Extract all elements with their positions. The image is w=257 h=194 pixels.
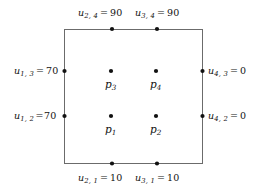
interior-label-p3-subscript: 3 bbox=[112, 83, 117, 92]
boundary-label-u-2-1-equals: = bbox=[100, 172, 108, 183]
interior-node-p4 bbox=[154, 69, 158, 73]
boundary-label-u-4-2-subscript: 4, 2 bbox=[214, 115, 228, 123]
boundary-label-u-1-2-value: 70 bbox=[44, 110, 56, 121]
boundary-label-u-3-4: u3, 4=90 bbox=[135, 8, 179, 20]
interior-label-p1-symbol: p bbox=[105, 123, 112, 135]
boundary-label-u-2-1-subscript: 2, 1 bbox=[84, 177, 98, 185]
interior-label-p4: p4 bbox=[150, 79, 161, 91]
interior-node-p2 bbox=[154, 114, 158, 118]
boundary-label-u-3-1: u3, 1=10 bbox=[135, 173, 179, 185]
boundary-label-u-3-4-value: 90 bbox=[167, 7, 179, 18]
boundary-node-u-2-4 bbox=[110, 27, 114, 31]
boundary-label-u-1-2-subscript: 1, 2 bbox=[20, 115, 34, 123]
boundary-label-u-4-2-equals: = bbox=[230, 110, 238, 121]
boundary-label-u-1-3: u1, 3=70 bbox=[14, 66, 58, 78]
boundary-label-u-2-4-subscript: 2, 4 bbox=[84, 12, 98, 20]
boundary-label-u-4-2: u4, 2=0 bbox=[208, 111, 246, 123]
boundary-label-u-3-1-subscript: 3, 1 bbox=[141, 177, 155, 185]
boundary-label-u-1-3-subscript: 1, 3 bbox=[20, 70, 34, 78]
interior-label-p2-subscript: 2 bbox=[157, 128, 162, 137]
boundary-label-u-4-2-value: 0 bbox=[240, 110, 246, 121]
diagram-graphics bbox=[0, 0, 257, 194]
interior-label-p3: p3 bbox=[105, 79, 116, 91]
boundary-label-u-2-1-value: 10 bbox=[110, 172, 122, 183]
interior-label-p3-symbol: p bbox=[105, 78, 112, 90]
boundary-node-u-1-2 bbox=[62, 114, 66, 118]
boundary-node-u-4-2 bbox=[200, 114, 204, 118]
boundary-label-u-2-4: u2, 4=90 bbox=[78, 8, 122, 20]
interior-label-p1: p1 bbox=[105, 124, 116, 136]
boundary-label-u-2-4-value: 90 bbox=[110, 7, 122, 18]
interior-node-p3 bbox=[109, 69, 113, 73]
boundary-label-u-3-1-equals: = bbox=[157, 172, 165, 183]
boundary-label-u-2-1: u2, 1=10 bbox=[78, 173, 122, 185]
interior-label-p2: p2 bbox=[150, 124, 161, 136]
boundary-label-u-3-4-subscript: 3, 4 bbox=[141, 12, 155, 20]
domain-boundary-rect bbox=[65, 30, 203, 164]
boundary-node-u-2-1 bbox=[110, 161, 114, 165]
boundary-label-u-4-3-value: 0 bbox=[240, 65, 246, 76]
boundary-label-u-2-4-equals: = bbox=[100, 7, 108, 18]
interior-label-p2-symbol: p bbox=[150, 123, 157, 135]
boundary-label-u-1-2-equals: = bbox=[36, 110, 44, 121]
boundary-label-u-3-1-value: 10 bbox=[167, 172, 179, 183]
boundary-node-u-1-3 bbox=[62, 69, 66, 73]
diagram-canvas: u2, 4=90 u3, 4=90 u1, 3=70 u1, 2=70 u4, … bbox=[0, 0, 257, 194]
boundary-label-u-3-4-equals: = bbox=[157, 7, 165, 18]
boundary-label-u-1-3-equals: = bbox=[36, 65, 44, 76]
interior-node-p1 bbox=[109, 114, 113, 118]
boundary-label-u-4-3-subscript: 4, 3 bbox=[214, 70, 228, 78]
boundary-label-u-1-3-value: 70 bbox=[46, 65, 58, 76]
interior-label-p4-symbol: p bbox=[150, 78, 157, 90]
boundary-label-u-1-2: u1, 2=70 bbox=[14, 111, 56, 123]
boundary-node-u-4-3 bbox=[200, 69, 204, 73]
boundary-node-u-3-4 bbox=[155, 27, 159, 31]
interior-label-p1-subscript: 1 bbox=[112, 128, 117, 137]
boundary-node-u-3-1 bbox=[155, 161, 159, 165]
interior-label-p4-subscript: 4 bbox=[157, 83, 162, 92]
boundary-label-u-4-3-equals: = bbox=[230, 65, 238, 76]
boundary-label-u-4-3: u4, 3=0 bbox=[208, 66, 246, 78]
